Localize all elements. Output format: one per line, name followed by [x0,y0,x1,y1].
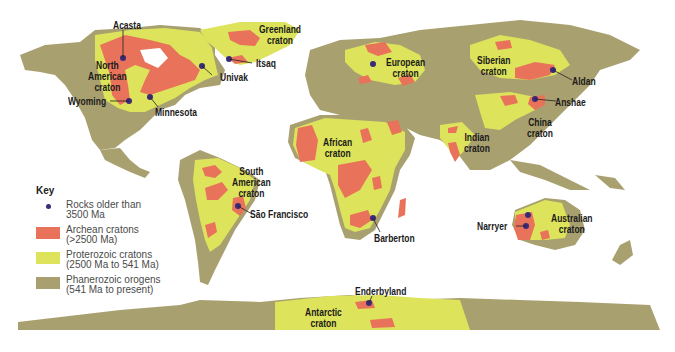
craton-label-european: European craton [386,57,425,79]
label-line: African [323,137,352,148]
legend-line: (541 Ma to present) [66,285,161,295]
label-line: China [527,117,553,128]
craton-label-china: China craton [527,117,553,139]
craton-label-siberian: Siberian craton [477,55,511,77]
legend-line: (2500 Ma to 541 Ma) [66,260,159,270]
legend-item-archean: Archean cratons (>2500 Ma) [36,225,161,247]
label-line: craton [386,68,425,79]
site-label-sao-francisco: São Francisco [250,209,308,220]
craton-label-indian: Indian craton [464,132,490,154]
label-line: Antarctic [305,307,342,318]
label-line: craton [232,188,271,199]
site-label-anshae: Anshae [555,97,586,108]
craton-label-australian: Australian craton [551,213,593,235]
archean-swatch-icon [36,227,60,239]
craton-label-south-american: South American craton [232,166,271,199]
label-line: Greenland [259,24,301,35]
label-line: craton [88,82,127,93]
dot-icon [36,200,60,212]
label-line: craton [259,35,301,46]
label-line: American [88,71,127,82]
africa [288,115,415,240]
site-label-aldan: Aldan [572,76,596,87]
legend-text: Proterozoic cratons (2500 Ma to 541 Ma) [66,250,159,270]
label-line: craton [464,143,490,154]
legend-item-old-rocks: Rocks older than 3500 Ma [36,200,161,222]
southeast-asia [510,160,625,190]
legend-line: (>2500 Ma) [66,235,139,245]
label-line: Australian [551,213,593,224]
site-label-minnesota: Minnesota [155,107,197,118]
legend-item-proterozoic: Proterozoic cratons (2500 Ma to 541 Ma) [36,250,161,272]
label-line: craton [551,224,593,235]
legend-text: Archean cratons (>2500 Ma) [66,225,139,245]
legend-item-phanerozoic: Phanerozoic orogens (541 Ma to present) [36,275,161,297]
map-legend: Key Rocks older than 3500 Ma Archean cra… [36,185,161,300]
label-line: North [88,60,127,71]
label-line: Indian [464,132,490,143]
craton-label-greenland: Greenland craton [259,24,301,46]
site-label-barberton: Barberton [374,233,415,244]
phanerozoic-swatch-icon [36,277,60,289]
label-line: South [232,166,271,177]
label-line: craton [323,148,352,159]
label-line: Siberian [477,55,511,66]
label-line: craton [527,128,553,139]
label-line: European [386,57,425,68]
legend-text: Phanerozoic orogens (541 Ma to present) [66,275,161,295]
legend-title: Key [36,185,161,196]
label-line: craton [305,318,342,329]
craton-label-african: African craton [323,137,352,159]
craton-label-north-american: North American craton [88,60,127,93]
proterozoic-swatch-icon [36,252,60,264]
site-label-enderbyland: Enderbyland [355,286,406,297]
craton-label-antarctic: Antarctic craton [305,307,342,329]
site-label-univak: Univak [220,72,248,83]
site-label-itsaq: Itsaq [256,58,276,69]
label-line: American [232,177,271,188]
legend-line: 3500 Ma [66,210,141,220]
label-line: craton [477,66,511,77]
site-label-acasta: Acasta [113,20,141,31]
site-label-wyoming: Wyoming [68,96,106,107]
site-label-narryer: Narryer [477,221,507,232]
legend-text: Rocks older than 3500 Ma [66,200,141,220]
